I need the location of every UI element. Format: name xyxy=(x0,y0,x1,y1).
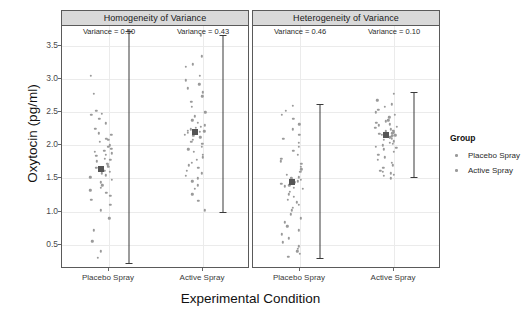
data-point xyxy=(110,134,112,136)
error-bar xyxy=(320,104,321,258)
data-point xyxy=(192,63,194,65)
data-point xyxy=(395,147,397,149)
x-tick-label: Placebo Spray xyxy=(82,273,134,282)
data-point xyxy=(100,250,102,252)
error-bar-cap xyxy=(220,212,227,213)
x-axis-title: Experimental Condition xyxy=(61,291,440,306)
data-point xyxy=(186,169,188,171)
data-point xyxy=(297,153,299,155)
data-point xyxy=(110,152,112,154)
grid-line-horizontal xyxy=(253,212,439,213)
data-point xyxy=(378,124,380,126)
data-point xyxy=(198,83,200,85)
data-point xyxy=(396,126,398,128)
data-point xyxy=(100,187,102,189)
data-point xyxy=(190,141,192,143)
data-point xyxy=(187,87,189,89)
data-point xyxy=(196,122,198,124)
error-bar-cap xyxy=(126,31,133,32)
y-tick-mark xyxy=(58,45,61,46)
y-axis-tick-labels: 0.51.01.52.02.53.03.5 xyxy=(29,0,58,319)
grid-line-horizontal xyxy=(253,46,439,47)
error-bar-cap xyxy=(411,177,418,178)
error-bar-cap xyxy=(317,104,324,105)
legend: Group Placebo Spray Active Spray xyxy=(450,133,530,178)
data-point xyxy=(97,132,99,134)
data-point xyxy=(280,183,282,185)
data-point xyxy=(383,148,385,150)
data-point xyxy=(377,153,379,155)
grid-line-horizontal xyxy=(62,145,248,146)
data-point xyxy=(191,106,193,108)
data-point xyxy=(184,134,186,136)
variance-annotation: Variance = 0.10 xyxy=(368,27,420,36)
y-tick-label: 3.5 xyxy=(32,40,58,50)
y-tick-label: 0.5 xyxy=(32,239,58,249)
data-point xyxy=(195,159,197,161)
data-point xyxy=(90,75,92,77)
data-point xyxy=(284,221,286,223)
data-point xyxy=(199,136,201,138)
plot-area-1: Variance = 0.46Variance = 0.10 xyxy=(253,26,439,267)
grid-line-horizontal xyxy=(62,46,248,47)
legend-item-placebo[interactable]: Placebo Spray xyxy=(450,148,530,163)
data-point xyxy=(98,118,100,120)
data-point xyxy=(292,128,294,130)
grid-line-vertical xyxy=(203,26,204,267)
data-point xyxy=(187,132,189,134)
data-point xyxy=(280,233,282,235)
data-point xyxy=(383,139,385,141)
x-tick-mark xyxy=(202,268,203,271)
data-point xyxy=(89,189,91,191)
plot-area-0: Variance = 0.50Variance = 0.43 xyxy=(62,26,248,267)
mean-marker xyxy=(383,132,389,138)
data-point xyxy=(104,174,106,176)
facet-panel-homogeneity: Homogeneity of Variance Variance = 0.50V… xyxy=(61,10,249,268)
legend-item-active[interactable]: Active Spray xyxy=(450,163,530,178)
error-bar xyxy=(223,35,224,211)
x-tick-mark xyxy=(299,268,300,271)
data-point xyxy=(282,138,284,140)
data-point xyxy=(377,159,379,161)
data-point xyxy=(198,75,200,77)
x-tick-label: Active Spray xyxy=(371,273,416,282)
y-tick-mark xyxy=(58,244,61,245)
y-tick-mark xyxy=(58,144,61,145)
x-tick-mark xyxy=(393,268,394,271)
y-tick-mark xyxy=(58,211,61,212)
variance-annotation: Variance = 0.46 xyxy=(274,27,326,36)
data-point xyxy=(287,193,289,195)
data-point xyxy=(293,196,295,198)
y-tick-label: 1.0 xyxy=(32,206,58,216)
data-point xyxy=(185,175,187,177)
data-point xyxy=(281,114,283,116)
data-point xyxy=(286,173,288,175)
data-point xyxy=(94,128,96,130)
data-point xyxy=(204,124,206,126)
data-point xyxy=(376,99,378,101)
legend-label-placebo: Placebo Spray xyxy=(468,151,520,160)
data-point xyxy=(103,149,105,151)
data-point xyxy=(105,122,107,124)
data-point xyxy=(110,147,112,149)
data-point xyxy=(200,126,202,128)
data-point xyxy=(95,155,97,157)
data-point xyxy=(290,213,292,215)
data-point xyxy=(90,114,92,116)
data-point xyxy=(384,156,386,158)
x-tick-label: Active Spray xyxy=(180,273,225,282)
x-tick-mark xyxy=(108,268,109,271)
grid-line-horizontal xyxy=(62,79,248,80)
facet-panel-heterogeneity: Heterogeneity of Variance Variance = 0.4… xyxy=(252,10,440,268)
data-point xyxy=(375,122,377,124)
data-point xyxy=(94,151,96,153)
data-point xyxy=(191,161,193,163)
data-point xyxy=(91,240,93,242)
data-point xyxy=(382,171,384,173)
data-point xyxy=(377,108,379,110)
grid-line-horizontal xyxy=(253,178,439,179)
chart-root: Oxytocin (pg/ml) 0.51.01.52.02.53.03.5 H… xyxy=(0,0,530,319)
grid-line-horizontal xyxy=(253,79,439,80)
data-point xyxy=(187,148,189,150)
data-point xyxy=(194,188,196,190)
